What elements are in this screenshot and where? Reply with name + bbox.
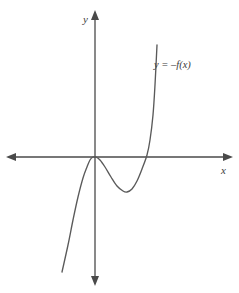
x-axis-label: x [221,165,226,176]
x-axis-right-arrowhead [223,153,233,161]
coordinate-plane [0,0,239,293]
y-axis-bottom-arrowhead [91,276,99,286]
x-axis-group [6,153,233,161]
graph-figure: y x y = –f(x) [0,0,239,293]
x-axis-left-arrowhead [6,153,16,161]
y-axis-group [91,10,99,286]
y-axis-top-arrowhead [91,10,99,20]
function-curve [62,45,157,272]
curve-equation-label: y = –f(x) [154,60,191,71]
y-axis-label: y [83,14,88,25]
